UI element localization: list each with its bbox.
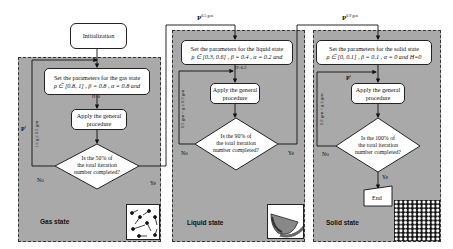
gas-decision-line2: the total iteration (67, 162, 127, 169)
gas-h-value: H=0 (92, 94, 100, 99)
initialization-box: Initialization (70, 23, 127, 49)
liquid-h-value: H=0.2 (235, 65, 246, 70)
gas-decision-text: Is the 50% of the total iteration number… (67, 155, 127, 176)
liquid-apply-line2: procedure (223, 94, 248, 102)
liquid-decision-text: Is the 90% of the total iteration number… (206, 133, 266, 154)
liquid-params-line1: Set the parameters for the liquid state (191, 45, 283, 53)
solid-apply-line2: procedure (366, 94, 391, 102)
gas-params-line1: Set the parameters for the gas state (54, 74, 140, 82)
solid-set-params-box: Set the parameters for the solid state ρ… (316, 40, 432, 65)
liquid-bowl-icon (267, 204, 304, 239)
gas-decision-line1: Is the 50% of (67, 155, 127, 162)
gas-yes-label: Ye (150, 180, 156, 186)
liquid-state-label: Liquid state (187, 219, 223, 226)
flow-connectors (0, 0, 453, 249)
initialization-label: Initialization (83, 32, 115, 40)
liquid-decision-line2: the total iteration (206, 140, 266, 147)
gas-apply-box: Apply the general procedure (71, 109, 127, 130)
solid-yes-label: Ye (382, 174, 388, 180)
liquid-decision-line3: number completed? (206, 147, 266, 154)
gas-loop-range: 1 ≤ g ≤ 0.5 gen (34, 121, 39, 148)
liquid-no-label: No (181, 150, 188, 156)
end-label: End (372, 195, 382, 201)
solid-decision-text: Is the 100% of the total iteration numbe… (348, 135, 408, 156)
gas-apply-line1: Apply the general (77, 112, 121, 120)
solid-params-line2: ρ ∈ [0, 0.1] , β = 0.1 , α = 0 and H=0 (327, 53, 422, 61)
solid-loop-range: 0.9 gen < g ≤ gen (319, 93, 324, 125)
solid-no-label: No (322, 151, 329, 157)
solid-state-label: Solid state (326, 219, 359, 226)
solid-apply-box: Apply the general procedure (351, 83, 405, 104)
solid-decision-line3: number completed? (348, 149, 408, 156)
gas-apply-line2: procedure (87, 120, 112, 128)
gas-params-line2: ρ ∈ [0.8, 1] , β = 0.8 , α = 0.8 and (54, 82, 140, 90)
solid-decision-line2: the total iteration (348, 142, 408, 149)
solid-loop-p-label: Pt (346, 73, 351, 81)
gas-loop-p-label: Pt (21, 124, 26, 132)
gas-particles-icon (126, 204, 160, 240)
liquid-params-line2: ρ ∈ [0.3, 0.6] , β = 0.4 , α = 0.2 and (192, 53, 283, 61)
to-liquid-transition-label: P0.5 gen (197, 13, 213, 22)
gas-state-label: Gas state (40, 218, 69, 225)
liquid-set-params-box: Set the parameters for the liquid state … (181, 40, 293, 65)
liquid-apply-line1: Apply the general (213, 86, 257, 94)
gas-set-params-box: Set the parameters for the gas state ρ ∈… (44, 68, 150, 95)
liquid-yes-label: Ye (288, 150, 294, 156)
solid-lattice-icon (394, 200, 440, 241)
liquid-loop-range: 0.5 gen < g ≤ 0.9 gen (180, 90, 185, 128)
liquid-apply-box: Apply the general procedure (210, 83, 260, 104)
gas-no-label: No (37, 177, 44, 183)
solid-decision-line1: Is the 100% of (348, 135, 408, 142)
to-solid-transition-label: P0.9 gen (342, 13, 358, 22)
gas-decision-line3: number completed? (67, 169, 127, 176)
solid-params-line1: Set the parameters for the solid state (329, 45, 419, 53)
solid-apply-line1: Apply the general (356, 86, 400, 94)
liquid-decision-line1: Is the 90% of (206, 133, 266, 140)
